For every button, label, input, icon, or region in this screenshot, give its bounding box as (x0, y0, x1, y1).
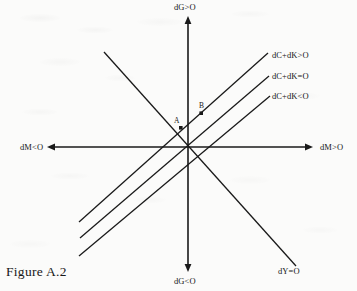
axis-label-dm-negative: dM<O (20, 143, 43, 152)
curve-label-dy-zero: dY=O (278, 267, 300, 276)
point-label-b: B (199, 102, 204, 110)
figure-page: dG>O dG<O dM<O dM>O dC+dK>O dC+dK=O dC+d… (0, 0, 357, 291)
curve-label-dc-dk-zero: dC+dK=O (272, 72, 309, 81)
point-a-marker (179, 126, 183, 130)
down-arrowhead-icon (185, 264, 192, 272)
horizontal-axis (47, 144, 313, 151)
economics-diagram (0, 0, 357, 291)
left-arrowhead-icon (47, 144, 55, 151)
right-arrowhead-icon (305, 144, 313, 151)
point-b-marker (199, 111, 203, 115)
axis-label-dg-negative: dG<O (174, 277, 196, 286)
figure-caption: Figure A.2 (6, 264, 67, 280)
axis-label-dg-positive: dG>O (174, 3, 196, 12)
curve-dc-dk-positive (79, 53, 268, 222)
curve-dc-dk-zero (80, 76, 269, 238)
curve-dy-zero (104, 52, 296, 266)
up-arrowhead-icon (185, 16, 192, 24)
curve-label-dc-dk-positive: dC+dK>O (272, 51, 309, 60)
axis-label-dm-positive: dM>O (320, 143, 343, 152)
point-label-a: A (174, 117, 179, 125)
curve-label-dc-dk-negative: dC+dK<O (272, 92, 309, 101)
